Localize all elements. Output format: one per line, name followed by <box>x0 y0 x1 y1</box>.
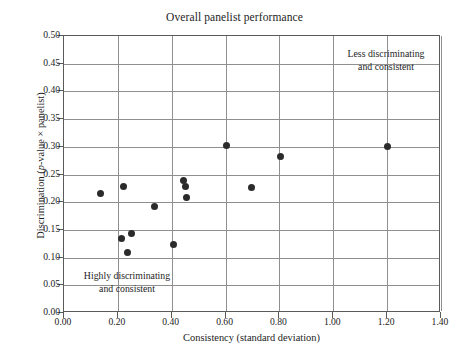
x-axis-label: Consistency (standard deviation) <box>63 332 440 343</box>
annotation-line-1: Less discriminating <box>321 48 451 61</box>
data-point <box>183 194 190 201</box>
y-tick-label: 0.00 <box>26 306 60 317</box>
gridline-horizontal <box>64 202 439 203</box>
x-tick-label: 0.80 <box>258 316 298 327</box>
gridline-vertical <box>279 36 280 311</box>
x-tick-label: 1.00 <box>312 316 352 327</box>
data-point <box>182 183 189 190</box>
data-point <box>151 203 158 210</box>
data-point <box>97 190 104 197</box>
gridline-vertical <box>333 36 334 311</box>
x-tick-label: 0.60 <box>205 316 245 327</box>
gridline-vertical <box>226 36 227 311</box>
gridline-vertical <box>387 36 388 311</box>
data-point <box>384 143 391 150</box>
gridline-vertical <box>441 36 442 311</box>
x-tick-label: 0.00 <box>43 316 83 327</box>
y-tick-label: 0.10 <box>26 251 60 262</box>
y-tick-label: 0.25 <box>26 168 60 179</box>
data-point <box>124 249 131 256</box>
y-tick-label: 0.45 <box>26 57 60 68</box>
data-point <box>128 230 135 237</box>
data-point <box>277 153 284 160</box>
y-axis-label-post: -value × panelist) <box>35 92 46 165</box>
gridline-horizontal <box>64 91 439 92</box>
x-tick-label: 1.40 <box>420 316 460 327</box>
gridline-horizontal <box>64 230 439 231</box>
annotation-less-discriminating: Less discriminatingand consistent <box>321 48 451 73</box>
annotation-line-2: and consistent <box>52 283 202 296</box>
annotation-line-2: and consistent <box>321 61 451 74</box>
y-tick-label: 0.35 <box>26 112 60 123</box>
y-tick-label: 0.30 <box>26 140 60 151</box>
annotation-highly-discriminating: Highly discriminatingand consistent <box>52 270 202 295</box>
gridline-horizontal <box>64 119 439 120</box>
annotation-line-1: Highly discriminating <box>52 270 202 283</box>
y-tick-label: 0.40 <box>26 84 60 95</box>
gridline-horizontal <box>64 147 439 148</box>
data-point <box>170 241 177 248</box>
data-point <box>120 183 127 190</box>
scatter-chart-figure: Overall panelist performance Discriminat… <box>0 0 469 357</box>
x-tick-label: 0.40 <box>151 316 191 327</box>
y-tick-label: 0.50 <box>26 29 60 40</box>
gridline-horizontal <box>64 175 439 176</box>
page-title: Overall panelist performance <box>0 11 469 23</box>
data-point <box>118 235 125 242</box>
x-tick-label: 1.20 <box>366 316 406 327</box>
data-point <box>248 184 255 191</box>
y-tick-label: 0.15 <box>26 223 60 234</box>
y-tick-label: 0.20 <box>26 195 60 206</box>
gridline-horizontal <box>64 258 439 259</box>
x-tick-label: 0.20 <box>97 316 137 327</box>
